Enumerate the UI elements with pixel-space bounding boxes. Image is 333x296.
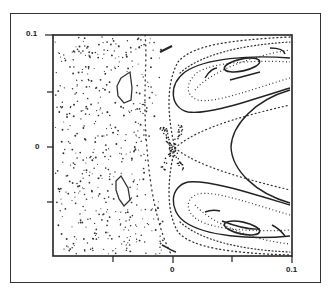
dotted-invariant-curves <box>188 50 290 244</box>
chaotic-sea-points <box>55 36 164 254</box>
y-tick-label-zero: 0 <box>35 142 39 151</box>
separatrix-curves <box>145 35 290 256</box>
y-tick-label-top: 0.1 <box>26 29 37 38</box>
small-streak-lower <box>162 245 176 252</box>
invariant-curves <box>173 48 290 237</box>
poincare-plot <box>0 0 333 296</box>
x-tick-label-zero: 0 <box>170 265 174 274</box>
chaotic-island-lower <box>116 176 130 206</box>
x-tick-label-right: 0.1 <box>286 265 297 274</box>
chaotic-island-upper <box>117 72 132 103</box>
small-streak <box>160 46 172 52</box>
